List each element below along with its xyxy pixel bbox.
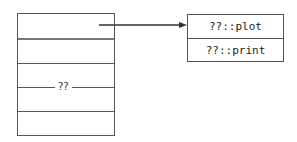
right-table-cell-print: ??::print <box>188 39 283 61</box>
method-print-label: ??::print <box>206 44 266 57</box>
arrowhead-icon <box>179 22 187 28</box>
right-table-cell-plot: ??::plot <box>188 15 283 38</box>
method-plot-label: ??::plot <box>209 20 262 33</box>
right-table: ??::plot ??::print <box>187 14 284 62</box>
diagram: ?? ??::plot ??::print <box>0 0 297 142</box>
